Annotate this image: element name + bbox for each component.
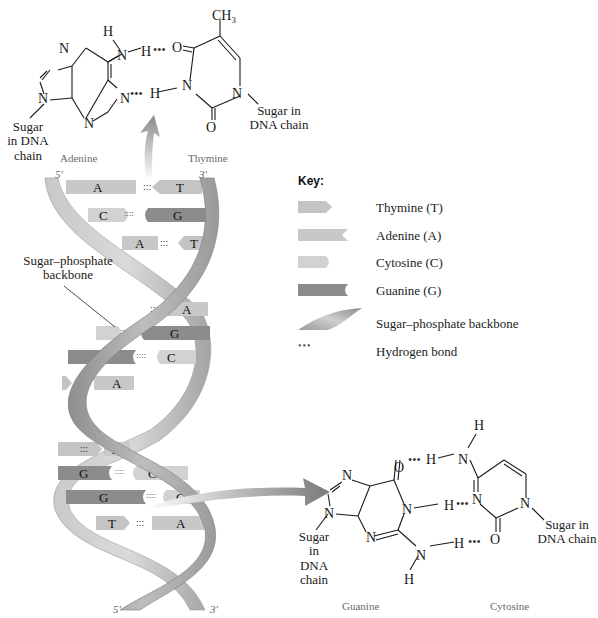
guanine-cytosine-structure: H N H ••• O N N N N H ••• N N N H H ••• …	[290, 400, 598, 618]
svg-text:::::: ::::	[136, 350, 146, 360]
base-pair-6: :::: G C	[68, 350, 196, 365]
thymine-key-icon	[298, 200, 338, 214]
atom-o2-cytosine: O	[490, 532, 500, 547]
sugar-line-1: Sugar in	[532, 518, 598, 532]
sugar-line-1: Sugar in	[244, 104, 314, 118]
backbone-leader-line	[60, 282, 120, 332]
legend-hydrogen-bond: Hydrogen bond	[376, 344, 457, 360]
guanine-cytosine-bonds: H N H ••• O N N N N H ••• N N N H H ••• …	[290, 400, 598, 618]
atom-n1-cytosine: N	[520, 496, 530, 511]
adenine-caption: Adenine	[60, 152, 97, 164]
svg-text:C: C	[167, 350, 176, 365]
sugar-line-1: Sugar	[4, 120, 52, 134]
guanine-caption: Guanine	[342, 600, 379, 612]
svg-text:T: T	[108, 516, 116, 531]
hbond-gc-1: •••	[408, 453, 421, 467]
svg-text:G: G	[99, 490, 108, 505]
hbond-dots-1: •••	[153, 43, 166, 57]
thymine-sugar-label: Sugar in DNA chain	[244, 104, 314, 133]
atom-o2-thymine: O	[206, 120, 216, 135]
helix-graphic: ::: A T :::: C G ::: A T	[0, 170, 300, 618]
legend-guanine: Guanine (G)	[376, 283, 441, 299]
legend-cytosine: Cytosine (C)	[376, 255, 443, 271]
atom-h-gc-1: H	[426, 452, 436, 467]
cytosine-sugar-label: Sugar in DNA chain	[532, 518, 598, 547]
adenine-key-icon	[298, 228, 350, 242]
sugar-line-2: in DNA	[294, 544, 334, 573]
atom-n3: N	[84, 116, 94, 131]
base-pair-3: ::: A T	[122, 236, 212, 251]
svg-text:::::: ::::	[124, 208, 134, 218]
legend-title: Key:	[298, 174, 324, 188]
svg-text::::: :::	[160, 237, 168, 248]
sugar-line-3: chain	[4, 149, 52, 163]
svg-text:G: G	[170, 326, 179, 341]
legend: Key: Thymine (T) Adenine (A) Cytosine (C…	[296, 170, 596, 400]
atom-n-amine: N	[117, 48, 127, 63]
legend-adenine: Adenine (A)	[376, 228, 441, 244]
hbond-gc-3: •••	[468, 535, 481, 549]
atom-o-thymine: O	[172, 40, 182, 55]
hbond-gc-2: •••	[456, 497, 469, 511]
svg-text:A: A	[182, 302, 192, 317]
sugar-line-2: in DNA	[4, 134, 52, 148]
bottom-three-prime-label: 3′	[210, 603, 218, 615]
atom-n7-guanine: N	[342, 468, 352, 483]
svg-text:A: A	[93, 180, 103, 195]
atom-h-guanine-amine: H	[404, 572, 414, 587]
hbond-dots-2: •••	[130, 87, 143, 101]
sugar-line-2: DNA chain	[532, 532, 598, 546]
base-pair-1: ::: A T	[66, 180, 202, 195]
backbone-label-line-2: backbone	[18, 268, 118, 282]
svg-text:T: T	[176, 180, 184, 195]
dna-double-helix: ::: A T :::: C G ::: A T	[0, 170, 300, 618]
atom-n3-cytosine: N	[472, 492, 482, 507]
svg-text:G: G	[79, 466, 88, 481]
legend-thymine: Thymine (T)	[376, 200, 443, 216]
svg-text::::: :::	[136, 517, 144, 528]
atom-n9: N	[38, 91, 48, 106]
atom-n-cytosine-amine: N	[458, 452, 468, 467]
bottom-five-prime-label: 5′	[113, 603, 121, 615]
atom-n1-guanine: N	[402, 502, 412, 517]
sugar-line-1: Sugar	[294, 530, 334, 544]
backbone-label: Sugar–phosphate backbone	[18, 254, 118, 283]
backbone-key-icon	[298, 306, 364, 332]
svg-text:A: A	[112, 376, 122, 391]
svg-text::::: :::	[143, 181, 151, 192]
atom-n1: N	[120, 91, 130, 106]
sugar-line-3: chain	[294, 573, 334, 587]
legend-backbone: Sugar–phosphate backbone	[376, 316, 519, 332]
top-five-prime-label: 5′	[55, 168, 63, 180]
sugar-line-2: DNA chain	[244, 118, 314, 132]
atom-n3-thymine: N	[182, 78, 192, 93]
svg-text:T: T	[190, 236, 198, 251]
svg-text:C: C	[99, 208, 108, 223]
svg-text::::: :::	[80, 443, 88, 454]
atom-h-gc-2: H	[444, 498, 454, 513]
atom-h-bond2: H	[150, 86, 160, 101]
guanine-sugar-label: Sugar in DNA chain	[294, 530, 334, 587]
atom-n7: N	[59, 41, 69, 56]
cytosine-key-icon	[298, 255, 338, 269]
atom-n3-guanine: N	[366, 530, 376, 545]
atom-o6-guanine: O	[394, 460, 404, 475]
atom-n1-thymine: N	[232, 86, 242, 101]
thymine-caption: Thymine	[188, 152, 228, 164]
atom-h-gc-3: H	[454, 536, 464, 551]
svg-text:A: A	[135, 236, 145, 251]
top-three-prime-label: 3′	[199, 168, 207, 180]
svg-text:::::: ::::	[114, 466, 124, 476]
atom-h-bond1: H	[141, 44, 151, 59]
atom-h-cytosine-amine: H	[474, 418, 484, 433]
atom-n-guanine-amine: N	[416, 548, 426, 563]
hydrogen-bond-key-icon: •••	[298, 340, 312, 351]
guanine-key-icon	[298, 283, 350, 297]
methyl-group: CH3	[212, 8, 236, 25]
backbone-label-line-1: Sugar–phosphate	[18, 254, 118, 268]
cytosine-caption: Cytosine	[490, 600, 529, 612]
atom-h-amine: H	[103, 24, 113, 39]
atom-n9-guanine: N	[324, 506, 334, 521]
base-pair-2: :::: C G	[88, 208, 212, 223]
adenine-sugar-label: Sugar in DNA chain	[4, 120, 52, 163]
